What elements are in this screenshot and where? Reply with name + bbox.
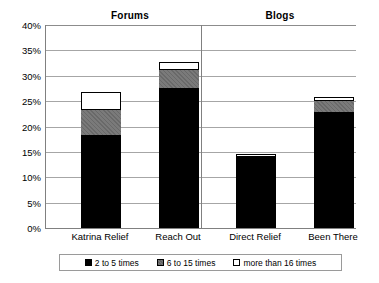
bar-segment-more-than-16-times	[159, 62, 199, 69]
y-tick-label-25: 25%	[1, 96, 41, 107]
y-tick-label-10: 10%	[1, 172, 41, 183]
legend-label: 6 to 15 times	[167, 258, 216, 268]
legend-swatch-icon	[233, 259, 240, 266]
bar-segment-2-to-5-times	[159, 88, 199, 228]
y-tick-label-15: 15%	[1, 146, 41, 157]
x-tick-label-been-there: Been There	[288, 231, 378, 242]
bar-segment-2-to-5-times	[314, 112, 354, 228]
y-tick-label-20: 20%	[1, 121, 41, 132]
group-title-forums: Forums	[55, 10, 205, 21]
y-tick-label-30: 30%	[1, 70, 41, 81]
legend-entry-more-than-16-times: more than 16 times	[233, 258, 316, 268]
legend-swatch-icon	[85, 259, 92, 266]
group-title-blogs: Blogs	[205, 10, 355, 21]
bar-katrina-relief	[81, 92, 121, 228]
legend-label: 2 to 5 times	[95, 258, 139, 268]
y-tick-label-5: 5%	[1, 197, 41, 208]
stacked-bar-chart: Forums Blogs 40% 35% 30% 25% 20% 15% 10%…	[0, 0, 379, 283]
bar-segment-2-to-5-times	[236, 156, 276, 228]
y-tick-label-0: 0%	[1, 223, 41, 234]
plot-area	[45, 25, 356, 229]
y-axis: 40% 35% 30% 25% 20% 15% 10% 5% 0%	[0, 25, 41, 228]
group-separator-line	[201, 25, 202, 228]
bar-direct-relief	[236, 154, 276, 228]
bar-been-there	[314, 97, 354, 228]
bar-segment-6-to-15-times	[314, 100, 354, 113]
x-axis: Katrina Relief Reach Out Direct Relief B…	[45, 231, 355, 247]
y-tick-label-40: 40%	[1, 20, 41, 31]
bar-segment-2-to-5-times	[81, 135, 121, 228]
y-tick-label-35: 35%	[1, 45, 41, 56]
bar-reach-out	[159, 62, 199, 228]
bar-segment-6-to-15-times	[81, 109, 121, 135]
bar-segment-6-to-15-times	[159, 69, 199, 88]
legend-swatch-icon	[157, 259, 164, 266]
legend-label: more than 16 times	[243, 258, 316, 268]
legend-entry-6-to-15-times: 6 to 15 times	[157, 258, 216, 268]
legend-entry-2-to-5-times: 2 to 5 times	[85, 258, 139, 268]
bar-segment-more-than-16-times	[81, 92, 121, 109]
x-tick-label-direct-relief: Direct Relief	[210, 231, 300, 242]
legend: 2 to 5 times 6 to 15 times more than 16 …	[59, 254, 342, 271]
x-tick-label-katrina-relief: Katrina Relief	[55, 231, 145, 242]
